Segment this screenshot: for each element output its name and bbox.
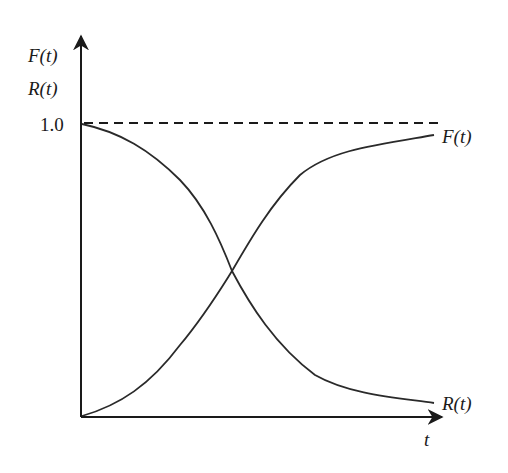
x-axis-label: t <box>424 429 430 450</box>
f-curve <box>82 135 434 416</box>
y-tick-label: 1.0 <box>40 114 64 135</box>
r-curve-label: R(t) <box>441 393 472 415</box>
reliability-chart: F(t) R(t) 1.0 F(t) R(t) t <box>0 0 508 473</box>
y-axis-label-f: F(t) <box>27 45 58 67</box>
y-axis-label-r: R(t) <box>27 78 58 100</box>
f-curve-label: F(t) <box>441 126 472 148</box>
r-curve <box>82 124 434 403</box>
